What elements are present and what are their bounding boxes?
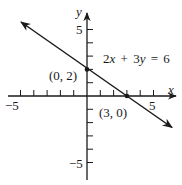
y-axis-label: y bbox=[74, 4, 82, 19]
point-y-intercept bbox=[85, 67, 90, 72]
point-x-intercept bbox=[125, 94, 130, 99]
y-axis: 5 −5 y bbox=[69, 4, 93, 180]
y-tick-label-neg5: −5 bbox=[69, 156, 83, 171]
point-label-y-intercept: (0, 2) bbox=[49, 68, 77, 83]
equation-line bbox=[21, 22, 172, 128]
eq-plus: + bbox=[121, 51, 128, 66]
equation-label: 2x + 3y = 6 bbox=[103, 51, 170, 66]
y-tick-label-5: 5 bbox=[76, 22, 83, 37]
x-tick-label-5: 5 bbox=[149, 98, 156, 113]
eq-const-c: 6 bbox=[163, 51, 170, 66]
point-label-x-intercept: (3, 0) bbox=[99, 105, 127, 120]
eq-equals: = bbox=[151, 51, 158, 66]
x-axis: −5 5 x bbox=[5, 82, 176, 113]
eq-var-x: x bbox=[109, 51, 116, 66]
x-axis-label: x bbox=[167, 82, 174, 97]
x-tick-label-neg5: −5 bbox=[5, 98, 19, 113]
eq-var-y: y bbox=[138, 51, 146, 66]
coordinate-graph: −5 5 x 5 −5 y (0, 2) (3, 0) 2x + 3y bbox=[0, 0, 182, 185]
